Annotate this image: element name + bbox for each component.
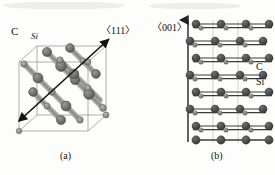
panel-b-direction-label-001: 〈001〉 [152, 23, 187, 33]
layer-row [186, 105, 268, 116]
panel-a-label-si: Si [31, 32, 38, 41]
layer-row [186, 37, 268, 48]
panel-a-label-c: C [11, 26, 18, 37]
figure-sic-crystal-structure: C Si 〈111〉 〈001〉 C Si (a) (b) [0, 0, 275, 175]
layer-row [192, 122, 274, 133]
panel-a-canvas [0, 0, 275, 175]
panel-a-direction-label-111: 〈111〉 [101, 26, 135, 36]
panel-a-caption: (a) [60, 150, 71, 161]
layer-row [192, 20, 274, 31]
panel-b-label-si: Si [256, 77, 264, 87]
layer-row [192, 136, 274, 145]
panel-b-label-c: C [256, 62, 263, 72]
panel-a-atoms [16, 44, 109, 134]
panel-b-caption: (b) [211, 150, 223, 161]
layer-row [192, 88, 274, 99]
